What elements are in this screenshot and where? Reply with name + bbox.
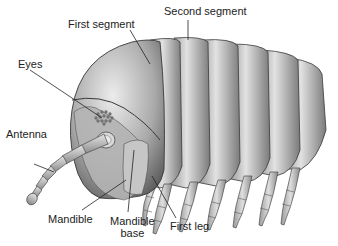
label-mandible: Mandible	[48, 213, 93, 225]
label-mandible-base-line2: base	[110, 227, 155, 239]
head	[70, 40, 164, 200]
label-mandible-base: Mandible base	[110, 215, 155, 239]
label-eyes: Eyes	[18, 58, 42, 70]
label-mandible-base-line1: Mandible	[110, 215, 155, 227]
millipede-illustration	[0, 0, 338, 246]
label-antenna: Antenna	[6, 128, 47, 140]
label-first-leg: First leg	[170, 220, 209, 232]
body-segments	[146, 38, 327, 189]
label-first-segment: First segment	[68, 18, 135, 30]
millipede-diagram: First segment Second segment Eyes Antenn…	[0, 0, 338, 246]
label-second-segment: Second segment	[164, 5, 247, 17]
